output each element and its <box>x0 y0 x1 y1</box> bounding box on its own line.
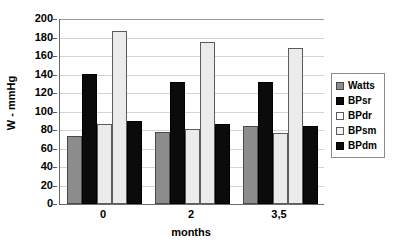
bar-watts-3-5 <box>243 126 258 204</box>
bar-bpsr-3-5 <box>258 82 273 204</box>
x-tick-label: 3,5 <box>235 208 323 220</box>
y-tick-mark <box>53 19 57 20</box>
legend-label: BPsm <box>348 126 376 136</box>
bar-bpsr-0 <box>82 74 97 204</box>
legend-label: BPdr <box>348 111 372 121</box>
bar-bpdm-0 <box>127 121 142 204</box>
bar-bpsm-3-5 <box>288 48 303 204</box>
y-tick-label: 60 <box>22 143 53 154</box>
bar-watts-2 <box>155 132 170 204</box>
y-tick-label: 180 <box>22 32 53 43</box>
y-tick-mark <box>53 93 57 94</box>
legend-swatch-icon <box>336 127 344 135</box>
y-tick-label: 200 <box>22 13 53 24</box>
y-axis-tick-labels: 200180160140120100806040200 <box>22 12 53 208</box>
legend-item-watts[interactable]: Watts <box>336 78 381 93</box>
bar-bpsm-0 <box>112 31 127 204</box>
legend-swatch-icon <box>336 142 344 150</box>
legend-label: BPdm <box>348 141 377 151</box>
legend-label: Watts <box>348 81 375 91</box>
bars-layer <box>60 19 324 204</box>
y-tick-mark <box>53 204 57 205</box>
bar-watts-0 <box>67 136 82 204</box>
y-tick-label: 20 <box>22 180 53 191</box>
y-tick-mark <box>53 186 57 187</box>
bar-bpsm-2 <box>200 42 215 204</box>
y-tick-label: 0 <box>22 198 53 209</box>
legend-swatch-icon <box>336 97 344 105</box>
bar-bpdr-0 <box>97 124 112 204</box>
bar-bpdr-3-5 <box>273 133 288 204</box>
x-tick-label: 2 <box>147 208 235 220</box>
bar-bpdm-2 <box>215 124 230 204</box>
plot-area <box>59 19 324 205</box>
legend-item-bpsm[interactable]: BPsm <box>336 123 381 138</box>
y-tick-mark <box>53 75 57 76</box>
y-tick-mark <box>53 130 57 131</box>
y-tick-mark <box>53 167 57 168</box>
bar-group <box>148 19 236 204</box>
bar-bpsr-2 <box>170 82 185 204</box>
x-tick-label: 0 <box>59 208 147 220</box>
bar-group <box>236 19 324 204</box>
y-tick-label: 40 <box>22 161 53 172</box>
chart-legend: WattsBPsrBPdrBPsmBPdm <box>331 73 385 158</box>
y-tick-label: 100 <box>22 106 53 117</box>
legend-swatch-icon <box>336 82 344 90</box>
x-axis-title: months <box>59 226 323 238</box>
y-tick-label: 160 <box>22 50 53 61</box>
legend-item-bpdm[interactable]: BPdm <box>336 138 381 153</box>
y-tick-label: 120 <box>22 87 53 98</box>
legend-swatch-icon <box>336 112 344 120</box>
legend-label: BPsr <box>348 96 371 106</box>
bar-bpdr-2 <box>185 129 200 204</box>
y-tick-label: 80 <box>22 124 53 135</box>
y-tick-mark <box>53 38 57 39</box>
y-tick-mark <box>53 149 57 150</box>
y-axis-title-text: W - mmHg <box>5 75 17 129</box>
y-tick-mark <box>53 56 57 57</box>
bar-bpdm-3-5 <box>303 126 318 204</box>
legend-item-bpsr[interactable]: BPsr <box>336 93 381 108</box>
y-tick-label: 140 <box>22 69 53 80</box>
y-axis-title: W - mmHg <box>0 0 22 205</box>
y-tick-mark <box>53 112 57 113</box>
bar-chart-figure: W - mmHg 200180160140120100806040200 023… <box>0 0 398 249</box>
legend-item-bpdr[interactable]: BPdr <box>336 108 381 123</box>
bar-group <box>60 19 148 204</box>
x-axis-tick-labels: 023,5 <box>59 208 323 224</box>
